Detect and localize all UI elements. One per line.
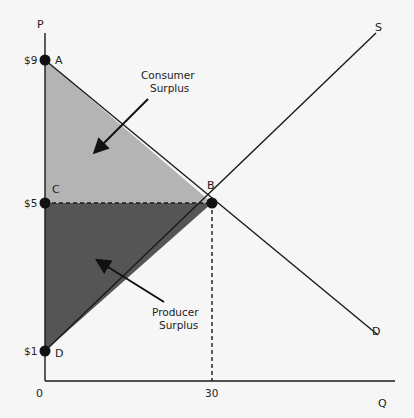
point-b-marker bbox=[207, 198, 218, 209]
producer-surplus-label-1: Producer bbox=[152, 306, 199, 318]
supply-curve-label: S bbox=[375, 21, 382, 34]
point-c-marker bbox=[40, 198, 51, 209]
y-tick-9: $9 bbox=[24, 54, 37, 66]
x-tick-30: 30 bbox=[205, 387, 218, 399]
point-a-marker bbox=[40, 55, 51, 66]
point-d-label: D bbox=[55, 347, 63, 360]
consumer-surplus-label-2: Surplus bbox=[150, 82, 189, 94]
y-tick-1: $1 bbox=[24, 345, 37, 357]
y-tick-5: $5 bbox=[24, 197, 37, 209]
y-axis-label: P bbox=[37, 18, 44, 31]
producer-surplus-label-2: Surplus bbox=[159, 319, 198, 331]
point-d-marker bbox=[40, 346, 51, 357]
demand-curve-label: D bbox=[372, 325, 380, 338]
x-axis-label: Q bbox=[378, 397, 387, 410]
consumer-surplus-label-1: Consumer bbox=[141, 69, 195, 81]
point-b-label: B bbox=[207, 179, 215, 192]
origin-label: 0 bbox=[36, 387, 43, 400]
surplus-diagram: P Q 0 $9 $5 $1 30 A C B D S D Consumer S… bbox=[0, 0, 414, 418]
point-a-label: A bbox=[55, 54, 63, 67]
point-c-label: C bbox=[52, 183, 60, 196]
